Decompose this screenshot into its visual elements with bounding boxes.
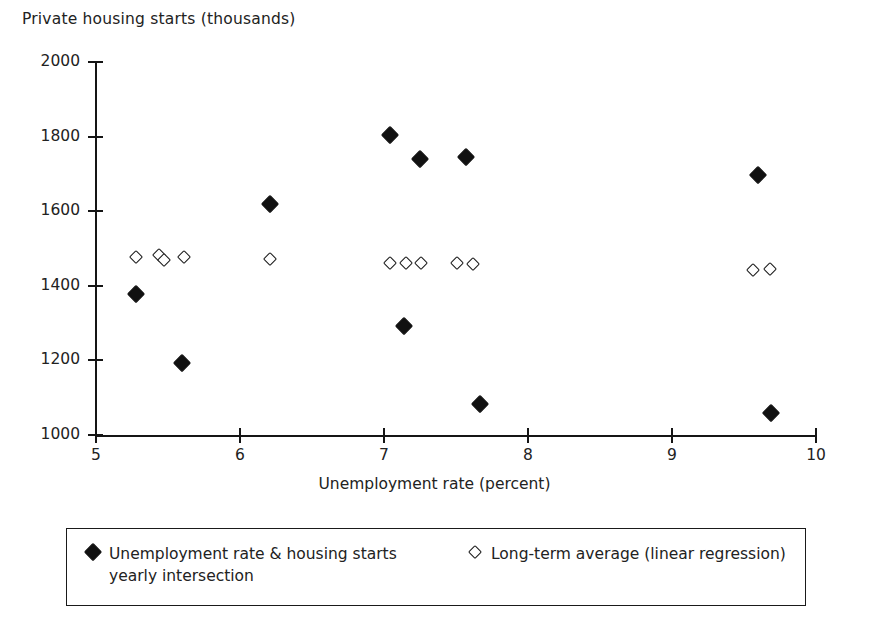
y-tick-label: 1800: [18, 127, 80, 145]
data-point-average: [263, 251, 277, 265]
y-tick-label: 1600: [18, 201, 80, 219]
legend-entry: Long-term average (linear regression): [467, 543, 797, 565]
legend-label: Unemployment rate & housing starts yearl…: [109, 543, 445, 587]
data-point-yearly: [261, 195, 279, 213]
y-tick-label: 1200: [18, 350, 80, 368]
x-tick-label: 9: [652, 446, 692, 464]
y-axis-line: [95, 61, 97, 437]
data-point-average: [746, 263, 760, 277]
legend-marker-icon: [467, 543, 483, 563]
data-point-average: [414, 256, 428, 270]
data-point-yearly: [471, 395, 489, 413]
data-point-average: [383, 256, 397, 270]
x-axis-line: [95, 435, 817, 437]
legend-entry: Unemployment rate & housing starts yearl…: [85, 543, 445, 587]
x-tick-mark: [671, 428, 673, 443]
y-tick-mark: [88, 359, 103, 361]
x-tick-mark: [815, 428, 817, 443]
x-tick-mark: [383, 428, 385, 443]
y-tick-mark: [88, 136, 103, 138]
y-tick-mark: [88, 285, 103, 287]
data-point-yearly: [762, 404, 780, 422]
y-tick-label: 2000: [18, 52, 80, 70]
data-point-yearly: [381, 126, 399, 144]
x-tick-mark: [95, 428, 97, 443]
data-point-average: [450, 256, 464, 270]
legend-marker-icon: [85, 543, 101, 563]
data-point-average: [177, 250, 191, 264]
y-tick-mark: [88, 210, 103, 212]
filled-diamond-icon: [84, 543, 102, 561]
data-point-average: [399, 256, 413, 270]
data-point-average: [763, 262, 777, 276]
data-point-yearly: [411, 150, 429, 168]
x-tick-label: 7: [364, 446, 404, 464]
data-point-yearly: [127, 285, 145, 303]
y-tick-label: 1000: [18, 425, 80, 443]
data-point-yearly: [749, 165, 767, 183]
x-tick-label: 5: [76, 446, 116, 464]
chart-legend: Unemployment rate & housing starts yearl…: [66, 528, 806, 606]
scatter-chart-figure: Private housing starts (thousands) 10001…: [0, 0, 869, 628]
x-tick-label: 6: [220, 446, 260, 464]
y-tick-label: 1400: [18, 276, 80, 294]
y-tick-mark: [88, 61, 103, 63]
legend-label: Long-term average (linear regression): [491, 543, 786, 565]
data-point-average: [466, 257, 480, 271]
x-tick-label: 8: [508, 446, 548, 464]
data-point-average: [129, 250, 143, 264]
hollow-diamond-icon: [468, 545, 482, 559]
data-point-yearly: [173, 354, 191, 372]
x-tick-mark: [527, 428, 529, 443]
data-point-yearly: [395, 317, 413, 335]
data-point-yearly: [457, 148, 475, 166]
x-tick-label: 10: [796, 446, 836, 464]
x-tick-mark: [239, 428, 241, 443]
x-axis-title: Unemployment rate (percent): [0, 475, 869, 493]
